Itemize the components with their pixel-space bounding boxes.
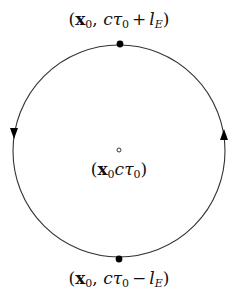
center-point-label: (x0cτ0) <box>91 161 147 180</box>
paren-close: ) <box>141 159 148 179</box>
arrow-down-icon <box>10 128 18 139</box>
vector-x: x <box>75 9 85 29</box>
symbol-c: c <box>103 268 113 288</box>
paren-close: ) <box>163 9 170 29</box>
top-point-label: (x0, cτ0+lE) <box>69 11 170 30</box>
top-point <box>117 41 124 48</box>
minus-operator: − <box>132 268 146 288</box>
paren-close: ) <box>163 268 170 288</box>
vector-subscript: 0 <box>85 18 92 31</box>
center-point <box>117 148 121 152</box>
paren-open: ( <box>69 268 76 288</box>
tau-subscript: 0 <box>134 168 141 181</box>
vector-subscript: 0 <box>85 277 92 290</box>
comma: , <box>92 9 97 29</box>
symbol-tau: τ <box>113 268 122 288</box>
vector-x: x <box>97 159 107 179</box>
tau-subscript: 0 <box>122 18 129 31</box>
paren-open: ( <box>69 9 76 29</box>
symbol-tau: τ <box>113 9 122 29</box>
tau-subscript: 0 <box>122 277 129 290</box>
bottom-point <box>116 256 123 263</box>
comma: , <box>92 268 97 288</box>
symbol-tau: τ <box>124 159 133 179</box>
symbol-c: c <box>115 159 125 179</box>
vector-subscript: 0 <box>108 168 115 181</box>
vector-x: x <box>75 268 85 288</box>
arrow-up-icon <box>220 129 228 140</box>
plus-operator: + <box>132 9 146 29</box>
bottom-point-label: (x0, cτ0−lE) <box>69 270 170 289</box>
paren-open: ( <box>91 159 98 179</box>
contour-diagram <box>0 0 237 296</box>
symbol-c: c <box>103 9 113 29</box>
